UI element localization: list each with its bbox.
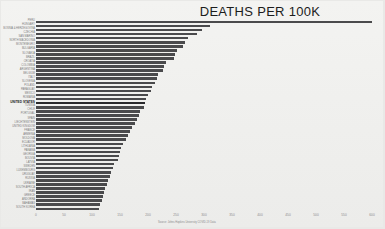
bar [36,29,202,32]
bar [36,61,166,64]
bar [36,49,177,52]
x-axis-tick: 0 [35,213,37,217]
x-axis-tick: 350 [229,213,234,217]
x-axis-tick: 400 [257,213,262,217]
bar-row: SOUTH KOREA [0,207,385,211]
bar [36,195,103,198]
bar [36,53,175,56]
bar [36,187,105,190]
x-axis-tick: 600 [369,213,374,217]
bar [36,155,119,158]
bar [36,110,140,113]
bar [36,45,183,48]
bar [36,138,126,141]
bar [36,171,111,174]
bar [36,167,113,170]
bar [36,179,108,182]
bar [36,102,145,105]
bar [36,106,144,109]
bar [36,114,139,117]
bar [36,159,118,162]
x-axis-tick: 150 [117,213,122,217]
bar [36,57,174,60]
bar [36,33,197,36]
bar [36,86,152,89]
bar [36,90,151,93]
bar [36,147,121,150]
bar [36,130,130,133]
bar [36,98,146,101]
bar [36,183,107,186]
bar [36,73,158,76]
bar [36,82,155,85]
bar-chart-plot-area: 050100150200250300350400450500550600PERU… [0,0,385,229]
bar [36,65,164,68]
bar [36,21,372,24]
bar [36,151,120,154]
bar [36,191,104,194]
bar [36,77,157,80]
chart-source: Source: Johns Hopkins University COVID-1… [158,221,216,224]
x-axis-tick: 500 [313,213,318,217]
bar [36,41,185,44]
category-label: SOUTH KOREA [16,206,35,210]
x-axis-tick: 50 [62,213,66,217]
x-axis-tick: 450 [285,213,290,217]
bar [36,199,102,202]
bar [36,37,188,40]
bar [36,69,163,72]
bar [36,126,132,129]
x-axis-tick: 100 [89,213,94,217]
x-axis-tick: 550 [341,213,346,217]
bar [36,203,100,206]
bar [36,143,123,146]
x-axis-tick: 250 [173,213,178,217]
bar [36,175,110,178]
bar [36,134,128,137]
bar [36,208,99,211]
bar [36,163,114,166]
bar [36,25,210,28]
bar [36,94,148,97]
bar [36,118,137,121]
x-axis-tick: 300 [201,213,206,217]
x-axis-tick: 200 [145,213,150,217]
bar [36,122,135,125]
